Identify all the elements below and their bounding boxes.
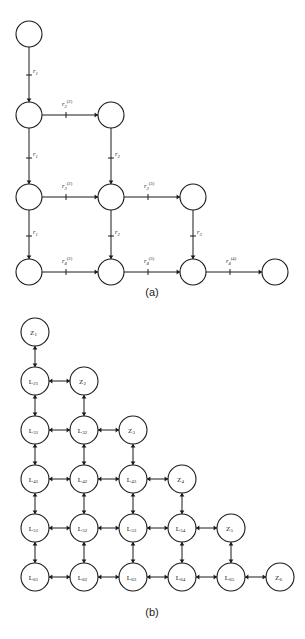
edge-b-l21-z2 [49,379,70,384]
node-a-r3c1[interactable] [16,184,42,210]
panel-b: Z1L21Z2L31L32Z3L41L42L43Z4L51L52L53L54Z5… [21,318,294,591]
edge-a-v-2: r1 [26,128,38,184]
edge-b-l52-l53 [98,526,119,531]
edge-b-z2-l32 [82,395,87,416]
edge-a-v-5-label: r2 [115,228,121,237]
node-b-z1[interactable]: Z1 [21,318,49,346]
edge-b-l32-z3 [98,428,119,433]
node-a-r2c1[interactable] [16,102,42,128]
edge-a-v-6-label: r3 [197,228,203,237]
edge-b-l42-l52 [82,493,87,514]
edge-b-l43-l53 [131,493,136,514]
panel-a: r1r2(2)r1r2r3(2)r3(3)r1r2r3r4(2)r4(3)r4(… [16,21,288,285]
edge-a-v-2-label: r1 [33,150,38,159]
edge-b-l65-z6 [245,575,266,580]
edge-a-h-4: r4(2) [42,256,98,275]
edge-b-l21-l31 [33,395,38,416]
edge-b-z4-l54 [180,493,185,514]
edge-b-l41-l51 [33,493,38,514]
edge-a-v-3-label: r2 [115,150,121,159]
node-b-z2[interactable]: Z2 [70,367,98,395]
node-b-z3[interactable]: Z3 [119,416,147,444]
edge-a-h-1-label: r2(2) [62,99,73,109]
edge-b-l64-l65 [196,575,217,580]
edge-b-l53-l63 [131,542,136,563]
node-a-r2c2[interactable] [98,102,124,128]
node-b-z6[interactable]: Z6 [266,563,294,591]
edge-a-v-4-label: r1 [33,228,38,237]
edge-a-v-3: r2 [108,128,121,184]
node-a-r4c3-circle[interactable] [180,259,206,285]
edge-a-v-4: r1 [26,210,38,259]
edge-b-z5-l65 [229,542,234,563]
edge-b-l42-l43 [98,477,119,482]
node-a-r4c2-circle[interactable] [98,259,124,285]
node-a-r3c3-circle[interactable] [180,184,206,210]
caption-layer: (a)(b) [145,286,158,618]
edge-b-l51-l52 [49,526,70,531]
edge-a-v-1: r1 [26,47,38,102]
edge-b-l62-l63 [98,575,119,580]
panel-b-caption: (b) [145,606,158,618]
edge-b-l61-l62 [49,575,70,580]
edge-b-l54-l64 [180,542,185,563]
node-a-r4c1-circle[interactable] [16,259,42,285]
edge-b-l63-l64 [147,575,168,580]
node-b-l32[interactable]: L32 [70,416,98,444]
edge-a-h-2-label: r3(2) [62,181,73,191]
panel-a-caption: (a) [145,286,158,298]
node-a-r3c3[interactable] [180,184,206,210]
edge-a-h-6-label: r4(4) [226,256,237,266]
edge-b-l31-l32 [49,428,70,433]
node-b-l52[interactable]: L52 [70,514,98,542]
node-a-r3c2-circle[interactable] [98,184,124,210]
node-a-r1c1-circle[interactable] [16,21,42,47]
node-a-r2c1-circle[interactable] [16,102,42,128]
node-b-l43[interactable]: L43 [119,465,147,493]
edge-b-l52-l62 [82,542,87,563]
figure-root: r1r2(2)r1r2r3(2)r3(3)r1r2r3r4(2)r4(3)r4(… [0,0,305,639]
edge-a-h-3-label: r3(3) [144,181,155,191]
edge-a-h-3: r3(3) [124,181,180,200]
node-b-l62[interactable]: L62 [70,563,98,591]
node-b-l54[interactable]: L54 [168,514,196,542]
node-b-l64[interactable]: L64 [168,563,196,591]
edge-b-l43-z4 [147,477,168,482]
edge-b-l51-l61 [33,542,38,563]
node-a-r4c1[interactable] [16,259,42,285]
node-b-z4[interactable]: Z4 [168,465,196,493]
edge-a-v-1-label: r1 [33,67,38,76]
edge-a-h-5: r4(3) [124,256,180,275]
node-b-l65[interactable]: L65 [217,563,245,591]
edge-b-l41-l42 [49,477,70,482]
edge-a-h-5-label: r4(3) [144,256,155,266]
node-a-r3c2[interactable] [98,184,124,210]
edge-a-h-4-label: r4(2) [62,256,73,266]
edge-b-z1-l21 [33,346,38,367]
edge-a-h-1: r2(2) [42,99,98,118]
node-b-l61[interactable]: L61 [21,563,49,591]
edge-b-z3-l43 [131,444,136,465]
node-b-l31[interactable]: L31 [21,416,49,444]
node-b-l41[interactable]: L41 [21,465,49,493]
edge-a-h-6: r4(4) [206,256,262,275]
figure-svg: r1r2(2)r1r2r3(2)r3(3)r1r2r3r4(2)r4(3)r4(… [0,0,305,639]
node-a-r4c2[interactable] [98,259,124,285]
node-b-l21[interactable]: L21 [21,367,49,395]
node-b-l63[interactable]: L63 [119,563,147,591]
node-a-r2c2-circle[interactable] [98,102,124,128]
edge-b-l54-z5 [196,526,217,531]
node-a-r1c1[interactable] [16,21,42,47]
node-a-r4c4[interactable] [262,259,288,285]
node-a-r4c4-circle[interactable] [262,259,288,285]
node-a-r3c1-circle[interactable] [16,184,42,210]
node-b-l53[interactable]: L53 [119,514,147,542]
node-b-l51[interactable]: L51 [21,514,49,542]
edge-a-v-5: r2 [108,210,121,259]
edge-b-l32-l42 [82,444,87,465]
edge-b-l31-l41 [33,444,38,465]
node-a-r4c3[interactable] [180,259,206,285]
node-b-l42[interactable]: L42 [70,465,98,493]
node-b-z5[interactable]: Z5 [217,514,245,542]
edge-b-l53-l54 [147,526,168,531]
